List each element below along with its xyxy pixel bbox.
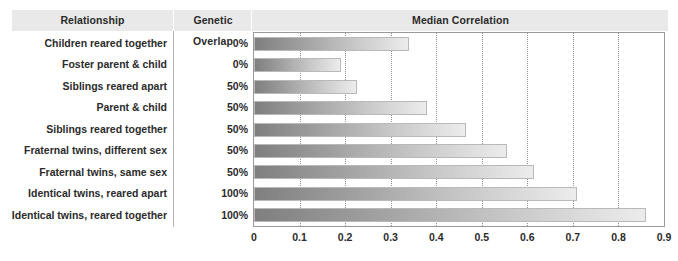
column-divider [173, 31, 174, 227]
row-label-relationship: Parent & child [6, 98, 167, 117]
column-header-genetic-overlap: Genetic Overlap [175, 10, 251, 31]
x-tick-label: 0.9 [649, 231, 678, 243]
row-value-genetic-overlap: 50% [177, 141, 248, 160]
row-label-relationship: Siblings reared together [6, 120, 167, 139]
plot-area [253, 32, 665, 227]
row-value-genetic-overlap: 50% [177, 77, 248, 96]
bar [254, 80, 357, 94]
row-label-relationship: Identical twins, reared together [6, 206, 167, 225]
row-value-genetic-overlap: 50% [177, 120, 248, 139]
row-label-relationship: Children reared together [6, 34, 167, 53]
bar [254, 165, 534, 179]
row-value-genetic-overlap: 0% [177, 34, 248, 53]
row-value-genetic-overlap: 100% [177, 206, 248, 225]
header-divider-2 [251, 10, 252, 31]
row-label-relationship: Foster parent & child [6, 55, 167, 74]
column-header-relationship: Relationship [12, 10, 173, 31]
x-tick-label: 0 [239, 231, 269, 243]
row-value-genetic-overlap: 100% [177, 184, 248, 203]
median-correlation-chart-figure: Relationship Genetic Overlap Median Corr… [0, 0, 678, 261]
header-divider-1 [173, 10, 174, 31]
row-label-relationship: Fraternal twins, same sex [6, 163, 167, 182]
x-tick-label: 0.6 [512, 231, 542, 243]
x-tick-label: 0.3 [376, 231, 406, 243]
x-tick-label: 0.2 [330, 231, 360, 243]
bar [254, 101, 427, 115]
row-label-relationship: Siblings reared apart [6, 77, 167, 96]
row-value-genetic-overlap: 50% [177, 98, 248, 117]
plot-inner [254, 33, 664, 226]
bar [254, 58, 341, 72]
bar [254, 208, 646, 222]
gridline [618, 33, 619, 226]
row-value-genetic-overlap: 50% [177, 163, 248, 182]
x-tick-label: 0.8 [603, 231, 633, 243]
bar [254, 37, 409, 51]
x-tick-label: 0.4 [421, 231, 451, 243]
x-tick-label: 0.5 [467, 231, 497, 243]
x-tick-label: 0.1 [285, 231, 315, 243]
row-label-relationship: Fraternal twins, different sex [6, 141, 167, 160]
row-label-relationship: Identical twins, reared apart [6, 184, 167, 203]
bar [254, 187, 577, 201]
row-value-genetic-overlap: 0% [177, 55, 248, 74]
bar [254, 144, 507, 158]
column-header-median-correlation: Median Correlation [253, 10, 668, 31]
bar [254, 123, 466, 137]
x-tick-label: 0.7 [558, 231, 588, 243]
